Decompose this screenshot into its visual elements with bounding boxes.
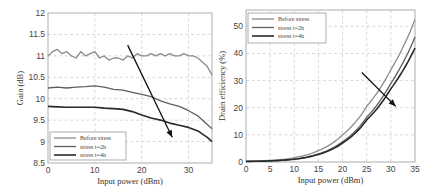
legend-label: stress t=2h — [80, 144, 106, 150]
legend-label: stress t=4h — [80, 152, 106, 158]
y-tick-label: 40 — [234, 48, 244, 58]
x-tick-label: 0 — [244, 164, 249, 174]
y-tick-label: 0 — [238, 157, 243, 167]
series-line-2 — [246, 37, 415, 161]
gain-chart: 8.599.51010.51111.512 0102030 Before str… — [15, 8, 212, 186]
figure: 8.599.51010.51111.512 0102030 Before str… — [0, 0, 439, 193]
y-tick-label: 10 — [36, 94, 46, 104]
y-tick-label: 10.5 — [28, 72, 45, 82]
y-tick-label: 9 — [40, 137, 45, 147]
y-tick-label: 9.5 — [33, 115, 45, 125]
x-tick-label: 10 — [290, 164, 300, 174]
efficiency-chart-y-label: Drain efficiency (%) — [217, 51, 227, 121]
x-tick-label: 15 — [314, 164, 324, 174]
y-tick-label: 12 — [36, 8, 46, 18]
x-tick-label: 35 — [410, 164, 420, 174]
x-tick-label: 0 — [46, 165, 51, 175]
efficiency-chart-x-label: Input power (dBm) — [298, 175, 364, 185]
x-tick-label: 10 — [90, 165, 100, 175]
gain-chart-x-label: Input power (dBm) — [97, 176, 163, 186]
efficiency-chart-y-ticks: 01020304050 — [234, 21, 244, 167]
gain-chart-arrow-annotation — [128, 45, 173, 137]
legend-label: Before stress — [278, 16, 310, 22]
y-tick-label: 50 — [234, 21, 244, 31]
gain-chart-series — [48, 49, 212, 141]
legend-label: stress t=4h — [278, 33, 304, 39]
y-tick-label: 30 — [234, 76, 244, 86]
x-tick-label: 5 — [268, 164, 273, 174]
series-line-1 — [48, 49, 212, 75]
efficiency-chart-legend: Before stressstress t=2hstress t=4h — [248, 13, 326, 43]
x-tick-label: 25 — [362, 164, 372, 174]
x-tick-label: 20 — [338, 164, 348, 174]
arrow-shaft — [128, 45, 173, 137]
y-tick-label: 20 — [234, 103, 244, 113]
x-tick-label: 30 — [184, 165, 194, 175]
y-tick-label: 11 — [36, 51, 45, 61]
gain-chart-x-ticks: 0102030 — [46, 165, 194, 175]
gain-chart-legend: Before stressstress t=2hstress t=4h — [50, 132, 126, 160]
y-tick-label: 10 — [234, 130, 244, 140]
legend-label: Before stress — [80, 135, 112, 141]
gain-chart-y-ticks: 8.599.51010.51111.512 — [28, 8, 45, 168]
y-tick-label: 8.5 — [33, 158, 45, 168]
legend-label: stress t=2h — [278, 25, 304, 31]
efficiency-chart-x-ticks: 05101520253035 — [244, 164, 420, 174]
y-tick-label: 11.5 — [29, 29, 45, 39]
x-tick-label: 20 — [137, 165, 147, 175]
gain-chart-y-label: Gain (dB) — [15, 71, 25, 105]
x-tick-label: 30 — [386, 164, 396, 174]
drain-efficiency-chart: 01020304050 05101520253035 Before stress… — [217, 10, 420, 185]
